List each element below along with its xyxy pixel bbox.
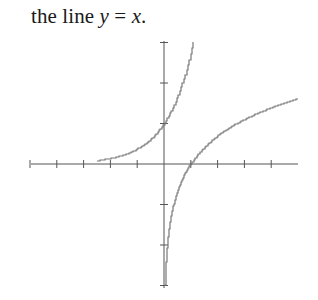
log-curve-upper — [191, 99, 298, 164]
log-curve-lower — [165, 164, 191, 285]
axes — [30, 41, 298, 288]
exp-curve — [97, 42, 193, 161]
function-graph — [0, 0, 318, 300]
